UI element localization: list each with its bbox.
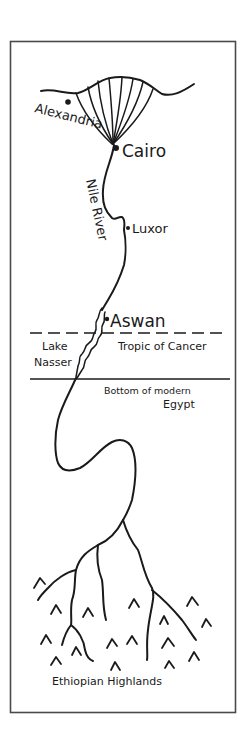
cairo-label: Cairo — [122, 141, 166, 161]
lake-label-line2: Nasser — [34, 356, 72, 369]
aswan-dot — [105, 317, 109, 321]
nile-delta — [76, 77, 153, 144]
egypt-border-label-line1: Bottom of modern — [104, 385, 191, 396]
alexandria-label: Alexandria — [33, 100, 104, 131]
alexandria-dot — [65, 99, 71, 105]
nile-river-south — [55, 378, 135, 520]
nile-map: Alexandria Cairo Luxor Aswan Nile River … — [0, 0, 248, 745]
luxor-label: Luxor — [132, 221, 169, 236]
lake-nasser — [76, 308, 105, 378]
tributaries — [38, 520, 196, 661]
luxor-dot — [126, 226, 130, 230]
aswan-label: Aswan — [110, 311, 166, 331]
cairo-dot — [113, 145, 119, 151]
egypt-border-label-line2: Egypt — [163, 398, 195, 411]
coastline — [41, 77, 194, 95]
ethiopian-highlands-label: Ethiopian Highlands — [52, 675, 162, 688]
tropic-of-cancer-label: Tropic of Cancer — [117, 340, 207, 353]
lake-label-line1: Lake — [42, 340, 68, 353]
